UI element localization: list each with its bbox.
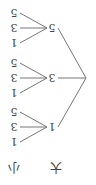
leaf-small: 5 [11,6,18,19]
edge [20,112,47,127]
edge-root-5 [58,28,86,78]
edge [20,28,47,43]
node-big-1: 1 [49,120,56,133]
edge-root-1 [58,78,86,127]
header-big: 大 [50,160,62,174]
leaf-small: 1 [11,86,18,99]
edge [20,13,47,28]
header-small: 小 [8,160,20,174]
leaf-small: 1 [11,135,18,148]
leaf-small: 3 [11,71,18,84]
edge [20,63,47,78]
leaf-small: 3 [11,120,18,133]
node-big-5: 5 [49,21,56,34]
leaf-small: 1 [11,36,18,49]
leaf-small: 5 [11,105,18,118]
edge [20,127,47,142]
tree-diagram: 大 小 1 3 5 1 3 5 1 3 5 [0,0,96,185]
leaf-small: 3 [11,21,18,34]
edge [20,78,47,93]
node-big-3: 3 [49,71,56,84]
leaf-small: 5 [11,56,18,69]
